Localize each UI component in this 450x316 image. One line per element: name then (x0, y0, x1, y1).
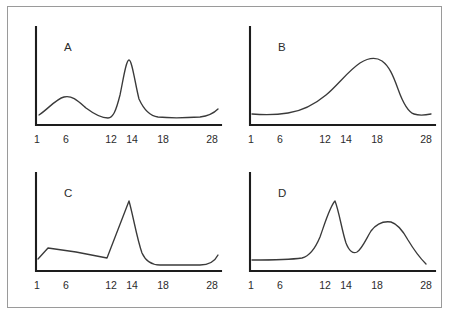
panel-c-tick-6: 6 (63, 279, 69, 291)
panel-d-tick-6: 6 (277, 279, 283, 291)
panel-c: C 1 6 12 14 18 28 (16, 159, 226, 305)
panel-d-tick-18: 18 (371, 279, 383, 291)
panel-b-tick-14: 14 (340, 133, 352, 145)
panel-a-tick-12: 12 (105, 133, 117, 145)
panel-c-tick-28: 28 (206, 279, 218, 291)
panel-b-tick-1: 1 (248, 133, 254, 145)
panel-b-tick-28: 28 (420, 133, 432, 145)
panel-c-letter: C (64, 187, 72, 199)
panel-d-tick-14: 14 (340, 279, 352, 291)
panel-b-curve (252, 59, 431, 116)
panel-b-letter: B (278, 41, 286, 53)
panel-d-tick-28: 28 (420, 279, 432, 291)
panel-a-tick-1: 1 (34, 133, 40, 145)
panel-c-tick-14: 14 (126, 279, 138, 291)
panel-a-letter: A (64, 41, 72, 53)
panel-d-tick-12: 12 (319, 279, 331, 291)
panel-d-tick-1: 1 (248, 279, 254, 291)
panel-c-tick-1: 1 (34, 279, 40, 291)
figure-frame: A 1 6 12 14 18 28 B 1 6 12 14 18 28 C 1 … (7, 6, 442, 308)
panel-a-tick-18: 18 (157, 133, 169, 145)
panel-d-curve (252, 201, 426, 264)
panel-c-tick-12: 12 (105, 279, 117, 291)
panel-b-tick-6: 6 (277, 133, 283, 145)
panel-d: D 1 6 12 14 18 28 (230, 159, 440, 305)
panel-b: B 1 6 12 14 18 28 (230, 13, 440, 159)
panel-a: A 1 6 12 14 18 28 (16, 13, 226, 159)
panel-a-tick-6: 6 (63, 133, 69, 145)
panel-d-letter: D (278, 187, 286, 199)
panel-b-tick-18: 18 (371, 133, 383, 145)
panel-a-curve (39, 60, 218, 118)
panel-b-tick-12: 12 (319, 133, 331, 145)
panel-c-curve (38, 201, 218, 265)
panel-a-tick-28: 28 (206, 133, 218, 145)
panel-a-tick-14: 14 (126, 133, 138, 145)
panel-c-tick-18: 18 (157, 279, 169, 291)
